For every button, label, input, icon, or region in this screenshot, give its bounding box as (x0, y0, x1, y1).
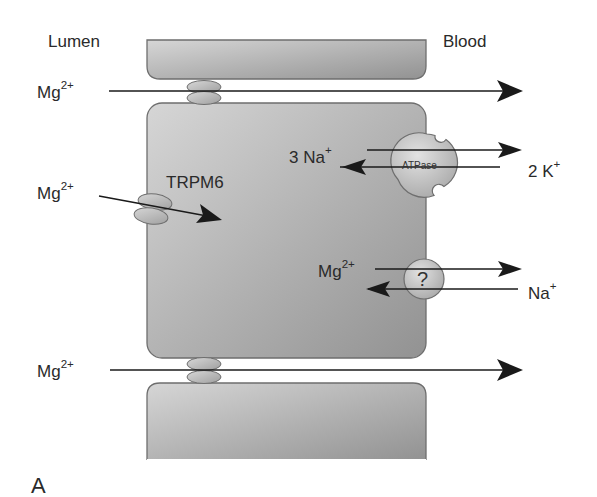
mg-label-exchanger: Mg2+ (318, 261, 355, 280)
mg-label-top: Mg2+ (37, 82, 74, 101)
na-label-exchanger: Na+ (528, 283, 556, 302)
trpm6-label: TRPM6 (166, 174, 224, 191)
atpase-label: ATPase (402, 161, 437, 171)
k-label-atpase: 2 K+ (528, 161, 560, 180)
na-label-atpase: 3 Na+ (289, 147, 332, 166)
magnesium-transport-diagram (0, 0, 597, 497)
middle-cell (147, 103, 426, 358)
tight-junction-top (187, 81, 221, 105)
paracellular-arrow-bottom (110, 359, 523, 381)
top-cell (147, 40, 426, 79)
mg-label-bottom: Mg2+ (37, 361, 74, 380)
panel-label: A (31, 475, 46, 497)
exchanger-question-label: ? (417, 269, 428, 289)
blood-label: Blood (443, 33, 486, 50)
bottom-cell (147, 383, 426, 460)
paracellular-arrow-top (109, 80, 523, 102)
mg-label-trpm6: Mg2+ (37, 183, 74, 202)
lumen-label: Lumen (48, 33, 100, 50)
